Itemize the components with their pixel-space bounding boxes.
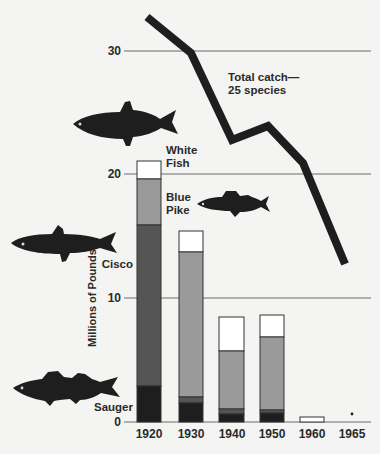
segment-cisco: [137, 225, 161, 386]
bar-1960: [300, 417, 324, 422]
segment-white-fish: [300, 417, 324, 422]
white-fish-label-2: Fish: [166, 157, 190, 169]
xtick-1960: 1960: [299, 427, 326, 441]
ytick-30: 30: [108, 44, 122, 58]
segment-blue-pike: [219, 351, 244, 409]
segment-sauger: [219, 414, 244, 422]
segment-sauger: [137, 386, 161, 422]
total-catch-label-2: 25 species: [228, 84, 286, 96]
ytick-0: 0: [114, 415, 121, 429]
blue-pike-silhouette-icon: [197, 191, 270, 217]
whitefish-silhouette-icon: [73, 101, 178, 146]
xtick-1950: 1950: [259, 427, 286, 441]
ytick-10: 10: [108, 291, 122, 305]
segment-blue-pike: [179, 252, 203, 397]
sauger-label: Sauger: [94, 401, 134, 413]
segment-blue-pike: [137, 179, 161, 225]
blue-pike-label-2: Pike: [166, 204, 190, 216]
segment-sauger: [179, 403, 203, 422]
segment-cisco: [219, 409, 244, 414]
segment-white-fish: [179, 231, 203, 252]
total-catch-line: [147, 17, 345, 264]
blue-pike-label-1: Blue: [166, 191, 191, 203]
segment-white-fish: [219, 317, 244, 351]
xtick-1965: 1965: [339, 427, 366, 441]
bar-1920: [137, 161, 161, 422]
xtick-1920: 1920: [136, 427, 163, 441]
segment-sauger: [260, 413, 284, 422]
cisco-label: Cisco: [102, 258, 133, 270]
ytick-20: 20: [108, 167, 122, 181]
chart-figure: 30 20 10 0 Millions of Pounds: [0, 0, 380, 454]
segment-blue-pike: [260, 337, 284, 410]
segment-white-fish: [260, 315, 284, 337]
cisco-silhouette-icon: [11, 225, 117, 262]
segment-cisco: [179, 397, 203, 403]
segment-white-fish: [137, 161, 161, 179]
bar-1940: [219, 317, 244, 422]
white-fish-label-1: White: [166, 144, 197, 156]
xtick-1930: 1930: [178, 427, 205, 441]
bar-1965-dot: [351, 413, 354, 416]
bar-1950: [260, 315, 284, 422]
y-axis-label: Millions of Pounds: [86, 249, 98, 347]
bar-1930: [179, 231, 203, 422]
xtick-1940: 1940: [219, 427, 246, 441]
total-catch-label-1: Total catch—: [228, 71, 300, 83]
